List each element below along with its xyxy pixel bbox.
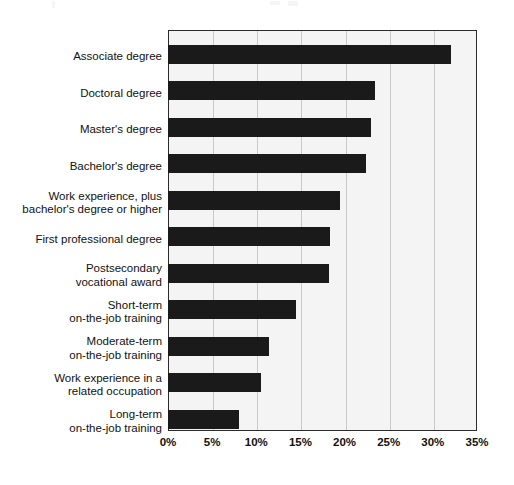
category-label: Doctoral degree	[0, 87, 162, 101]
category-label: Long-term on-the-job training	[0, 408, 162, 435]
bar	[168, 81, 375, 100]
scan-artifact	[288, 1, 298, 6]
category-axis-labels: Associate degreeDoctoral degreeMaster's …	[0, 30, 162, 431]
bar-row	[168, 285, 477, 321]
category-label: Short-term on-the-job training	[0, 299, 162, 326]
category-label: Work experience, plus bachelor's degree …	[0, 190, 162, 217]
x-axis-tick-labels: 0%5%10%15%20%25%30%35%	[168, 436, 477, 456]
bar	[168, 264, 329, 283]
bar-row	[168, 358, 477, 394]
bar	[168, 191, 340, 210]
x-tick-label: 35%	[465, 436, 488, 448]
bar-row	[168, 103, 477, 139]
bar	[168, 337, 269, 356]
category-label: Work experience in a related occupation	[0, 372, 162, 399]
bar-row	[168, 66, 477, 102]
category-label: Moderate-term on-the-job training	[0, 335, 162, 362]
bars-layer	[168, 30, 477, 431]
bar	[168, 373, 261, 392]
bar	[168, 118, 371, 137]
x-tick-label: 10%	[245, 436, 268, 448]
x-tick-label: 15%	[289, 436, 312, 448]
bar-row	[168, 395, 477, 431]
bar-row	[168, 212, 477, 248]
x-tick-label: 5%	[204, 436, 221, 448]
category-label: Bachelor's degree	[0, 160, 162, 174]
category-label: Associate degree	[0, 50, 162, 64]
bar	[168, 154, 366, 173]
bar-chart-figure: Associate degreeDoctoral degreeMaster's …	[0, 0, 514, 485]
bar	[168, 45, 451, 64]
bar	[168, 410, 239, 429]
x-tick-label: 30%	[421, 436, 444, 448]
scan-artifact	[52, 1, 55, 8]
bar-row	[168, 176, 477, 212]
x-tick-label: 25%	[377, 436, 400, 448]
category-label: Postsecondary vocational award	[0, 262, 162, 289]
category-label: First professional degree	[0, 233, 162, 247]
scan-artifact	[270, 1, 280, 5]
bar-row	[168, 249, 477, 285]
bar-row	[168, 322, 477, 358]
bar	[168, 227, 330, 246]
bar-row	[168, 139, 477, 175]
bar-row	[168, 30, 477, 66]
category-label: Master's degree	[0, 123, 162, 137]
bar	[168, 300, 296, 319]
x-tick-label: 0%	[160, 436, 177, 448]
x-tick-label: 20%	[333, 436, 356, 448]
